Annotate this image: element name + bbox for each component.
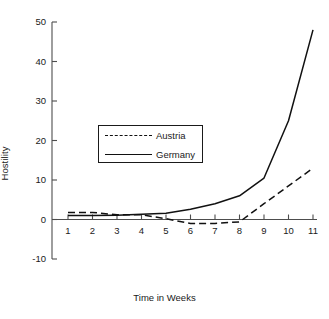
y-tick-label: 0 <box>8 215 46 225</box>
x-tick-label: 2 <box>90 226 95 236</box>
series-line-germany <box>68 30 313 216</box>
legend-item-austria: Austria <box>99 126 204 145</box>
y-tick-label: 40 <box>8 57 46 67</box>
y-tick-label: 30 <box>8 96 46 106</box>
chart-legend: Austria Germany <box>98 125 203 163</box>
y-axis-title: Hostility <box>0 146 10 180</box>
x-tick-label: 8 <box>237 226 242 236</box>
x-tick-label: 4 <box>139 226 144 236</box>
x-tick-label: 5 <box>163 226 168 236</box>
x-tick-label: 11 <box>308 226 318 236</box>
y-tick-label: -10 <box>8 254 46 264</box>
y-tick-label: 10 <box>8 175 46 185</box>
legend-swatch-germany <box>105 154 152 155</box>
x-tick-label: 6 <box>188 226 193 236</box>
legend-label-austria: Austria <box>156 130 186 141</box>
hostility-line-chart: -1001020304050 1234567891011 Hostility T… <box>0 0 329 319</box>
x-axis-title: Time in Weeks <box>0 292 329 303</box>
legend-item-germany: Germany <box>99 145 204 164</box>
x-tick-label: 9 <box>261 226 266 236</box>
x-tick-label: 10 <box>283 226 294 236</box>
y-tick-label: 50 <box>8 17 46 27</box>
x-tick-label: 3 <box>114 226 119 236</box>
legend-label-germany: Germany <box>156 149 195 160</box>
legend-swatch-austria <box>105 135 152 136</box>
x-tick-label: 7 <box>212 226 217 236</box>
y-tick-label: 20 <box>8 136 46 146</box>
x-tick-label: 1 <box>65 226 70 236</box>
